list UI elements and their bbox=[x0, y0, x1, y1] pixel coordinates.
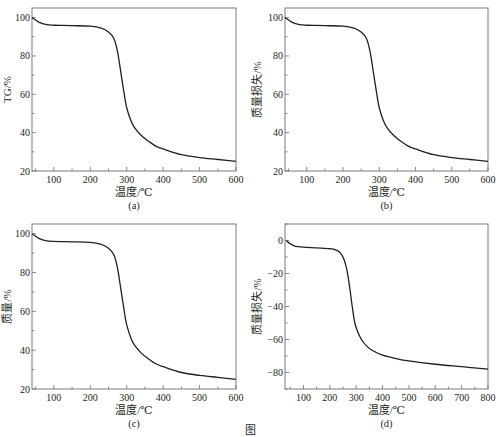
chart-panel-d: 100200300400500600700800−80−60−40−200温度/… bbox=[250, 216, 501, 432]
x-axis-title: 温度/℃ bbox=[368, 185, 405, 198]
x-tick-label: 400 bbox=[375, 392, 390, 403]
plot-frame bbox=[32, 8, 236, 171]
y-tick-label: 40 bbox=[273, 127, 283, 138]
figure-caption: 图 bbox=[0, 421, 501, 437]
y-axis-title: 质量/% bbox=[1, 289, 13, 323]
x-tick-label: 700 bbox=[454, 392, 469, 403]
x-tick-label: 300 bbox=[372, 174, 387, 185]
plot-frame bbox=[32, 224, 236, 389]
y-tick-label: 100 bbox=[268, 12, 283, 23]
x-axis-title: 温度/℃ bbox=[115, 403, 152, 416]
y-tick-label: 100 bbox=[15, 228, 30, 239]
y-tick-label: 0 bbox=[278, 235, 283, 246]
y-tick-label: −20 bbox=[267, 268, 283, 279]
x-tick-label: 200 bbox=[83, 174, 98, 185]
chart-panel-a: 10020030040050060020406080100温度/℃TG/%(a) bbox=[0, 0, 250, 216]
x-tick-label: 200 bbox=[83, 392, 98, 403]
y-tick-label: 80 bbox=[273, 50, 283, 61]
x-axis-title: 温度/℃ bbox=[368, 403, 405, 416]
panel-label: (a) bbox=[128, 200, 140, 212]
y-axis: 20406080100 bbox=[15, 228, 36, 394]
x-axis: 100200300400500600700800 bbox=[290, 385, 495, 403]
y-tick-label: 40 bbox=[20, 127, 30, 138]
y-tick-label: −40 bbox=[267, 301, 283, 312]
x-tick-label: 600 bbox=[481, 174, 496, 185]
data-curve bbox=[286, 241, 488, 370]
data-curve bbox=[285, 18, 488, 162]
y-tick-label: 80 bbox=[20, 50, 30, 61]
x-tick-label: 500 bbox=[401, 392, 416, 403]
y-tick-label: 20 bbox=[20, 166, 30, 177]
y-axis: 20406080100 bbox=[268, 12, 289, 176]
x-axis: 100200300400500600 bbox=[36, 385, 244, 403]
x-tick-label: 600 bbox=[229, 392, 244, 403]
y-axis-title: 质量损失/% bbox=[250, 278, 263, 334]
x-tick-label: 400 bbox=[156, 392, 171, 403]
x-tick-label: 500 bbox=[192, 174, 207, 185]
x-tick-label: 100 bbox=[296, 392, 311, 403]
x-tick-label: 400 bbox=[156, 174, 171, 185]
y-axis-title: TG/% bbox=[1, 76, 13, 103]
chart-panel-b: 10020030040050060020406080100温度/℃质量损失/%(… bbox=[250, 0, 501, 216]
y-tick-label: 20 bbox=[20, 384, 30, 395]
x-tick-label: 600 bbox=[229, 174, 244, 185]
y-tick-label: −80 bbox=[267, 367, 283, 378]
x-tick-label: 600 bbox=[428, 392, 443, 403]
x-tick-label: 300 bbox=[349, 392, 364, 403]
x-axis-title: 温度/℃ bbox=[115, 185, 152, 198]
y-tick-label: −60 bbox=[267, 334, 283, 345]
x-axis: 100200300400500600 bbox=[289, 167, 496, 185]
x-tick-label: 300 bbox=[119, 174, 134, 185]
x-tick-label: 200 bbox=[322, 392, 337, 403]
x-tick-label: 400 bbox=[408, 174, 423, 185]
y-tick-label: 40 bbox=[20, 345, 30, 356]
x-tick-label: 100 bbox=[46, 392, 61, 403]
y-tick-label: 80 bbox=[20, 267, 30, 278]
chart-svg-b: 10020030040050060020406080100温度/℃质量损失/%(… bbox=[250, 0, 501, 216]
y-axis: −80−60−40−200 bbox=[267, 224, 289, 389]
x-tick-label: 800 bbox=[481, 392, 496, 403]
data-curve bbox=[32, 18, 236, 162]
y-axis-title: 质量损失/% bbox=[250, 61, 263, 117]
x-tick-label: 300 bbox=[119, 392, 134, 403]
x-tick-label: 100 bbox=[46, 174, 61, 185]
y-axis: 20406080100 bbox=[15, 12, 36, 176]
chart-svg-d: 100200300400500600700800−80−60−40−200温度/… bbox=[250, 216, 501, 432]
chart-panel-c: 10020030040050060020406080100温度/℃质量/%(c) bbox=[0, 216, 250, 432]
plot-frame bbox=[285, 8, 488, 171]
y-tick-label: 60 bbox=[20, 306, 30, 317]
y-tick-label: 20 bbox=[273, 166, 283, 177]
data-curve bbox=[32, 234, 236, 380]
y-tick-label: 60 bbox=[20, 89, 30, 100]
chart-svg-c: 10020030040050060020406080100温度/℃质量/%(c) bbox=[0, 216, 250, 432]
x-tick-label: 200 bbox=[336, 174, 351, 185]
y-tick-label: 100 bbox=[15, 12, 30, 23]
x-tick-label: 100 bbox=[299, 174, 314, 185]
x-tick-label: 500 bbox=[444, 174, 459, 185]
x-axis: 100200300400500600 bbox=[36, 167, 244, 185]
x-tick-label: 500 bbox=[192, 392, 207, 403]
plot-frame bbox=[285, 224, 488, 389]
chart-svg-a: 10020030040050060020406080100温度/℃TG/%(a) bbox=[0, 0, 250, 216]
y-tick-label: 60 bbox=[273, 89, 283, 100]
panel-label: (b) bbox=[380, 200, 393, 212]
